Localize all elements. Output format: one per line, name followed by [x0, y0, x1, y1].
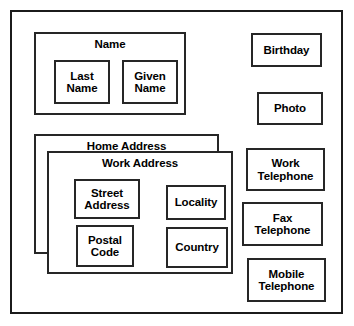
group-work-address-label: Work Address — [49, 157, 231, 170]
attribute-street-address-label: Street Address — [82, 187, 131, 212]
attribute-photo-label: Photo — [272, 102, 308, 115]
group-name[interactable]: Name Last Name Given Name — [34, 32, 186, 115]
attribute-birthday[interactable]: Birthday — [251, 33, 322, 67]
attribute-mobile-telephone-label: Mobile Telephone — [257, 268, 317, 293]
attribute-postal-code[interactable]: Postal Code — [76, 225, 134, 267]
attribute-country[interactable]: Country — [166, 227, 228, 268]
attribute-country-label: Country — [173, 241, 220, 254]
attribute-given-name[interactable]: Given Name — [122, 60, 178, 104]
attribute-fax-telephone-label: Fax Telephone — [253, 212, 313, 237]
attribute-locality[interactable]: Locality — [166, 185, 226, 220]
attribute-mobile-telephone[interactable]: Mobile Telephone — [247, 258, 326, 302]
attribute-work-telephone[interactable]: Work Telephone — [246, 148, 325, 191]
attribute-fax-telephone[interactable]: Fax Telephone — [242, 202, 323, 246]
attribute-postal-code-label: Postal Code — [86, 234, 124, 259]
attribute-photo[interactable]: Photo — [257, 92, 323, 125]
group-name-label: Name — [36, 38, 184, 51]
attribute-given-name-label: Given Name — [132, 70, 167, 95]
attribute-locality-label: Locality — [173, 196, 220, 209]
attribute-last-name[interactable]: Last Name — [54, 60, 110, 104]
diagram-canvas: Name Last Name Given Name Home Address W… — [0, 0, 354, 326]
outer-frame: Name Last Name Given Name Home Address W… — [10, 10, 343, 314]
attribute-last-name-label: Last Name — [65, 70, 100, 95]
group-work-address[interactable]: Work Address Street Address Postal Code … — [47, 151, 233, 274]
attribute-work-telephone-label: Work Telephone — [256, 157, 316, 182]
attribute-birthday-label: Birthday — [262, 44, 312, 57]
attribute-street-address[interactable]: Street Address — [74, 179, 140, 219]
